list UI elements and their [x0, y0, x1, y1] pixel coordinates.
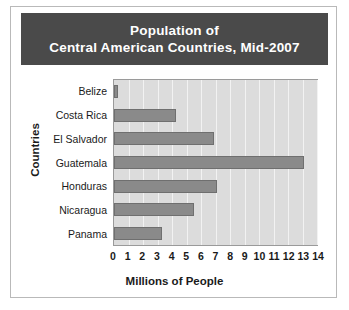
y-axis-tick-label: Honduras: [33, 174, 111, 198]
y-axis-tick-label: Panama: [33, 222, 111, 246]
bar: [114, 203, 194, 216]
bar-series: [114, 80, 317, 245]
chart-title-line-1: Population of: [130, 22, 219, 39]
bar: [114, 132, 214, 145]
y-axis-tick-label: El Salvador: [33, 127, 111, 151]
x-axis-tick-label: 3: [154, 250, 160, 262]
y-axis-tick-label: Costa Rica: [33, 103, 111, 127]
bar: [114, 109, 176, 122]
x-axis-tick-label: 11: [269, 250, 280, 262]
y-axis-tick-label: Nicaragua: [33, 198, 111, 222]
x-axis-label: Millions of People: [11, 275, 338, 287]
bar-row: [114, 221, 317, 245]
x-axis-tick-label: 9: [242, 250, 248, 262]
x-axis-tick-label: 4: [169, 250, 175, 262]
x-axis-tick-label: 1: [125, 250, 131, 262]
x-axis-tick-label: 13: [298, 250, 310, 262]
y-axis-tick-label: Belize: [33, 79, 111, 103]
bar-row: [114, 80, 317, 104]
x-axis-tick-label: 14: [312, 250, 324, 262]
chart-title-line-2: Central American Countries, Mid-2007: [49, 39, 300, 57]
y-axis-tick-label: Guatemala: [33, 151, 111, 175]
bar: [114, 85, 118, 98]
plot-area: [113, 79, 318, 246]
bar: [114, 156, 304, 169]
x-axis-tick-labels: 01234567891011121314: [113, 250, 318, 266]
x-axis-tick-label: 12: [283, 250, 295, 262]
x-axis-tick-label: 6: [198, 250, 204, 262]
bar: [114, 227, 162, 240]
bar-row: [114, 127, 317, 151]
chart-title-banner: Population of Central American Countries…: [21, 13, 328, 65]
x-axis-tick-label: 8: [227, 250, 233, 262]
x-axis-tick-label: 7: [213, 250, 219, 262]
bar-row: [114, 151, 317, 175]
x-axis-tick-label: 0: [110, 250, 116, 262]
gridline: [317, 80, 318, 245]
bar: [114, 180, 217, 193]
y-axis-tick-labels: BelizeCosta RicaEl SalvadorGuatemalaHond…: [33, 79, 111, 246]
bar-row: [114, 198, 317, 222]
x-axis-tick-label: 2: [139, 250, 145, 262]
bar-row: [114, 174, 317, 198]
x-axis-tick-label: 10: [254, 250, 266, 262]
bar-row: [114, 104, 317, 128]
chart-figure: Population of Central American Countries…: [10, 6, 337, 298]
x-axis-tick-label: 5: [183, 250, 189, 262]
